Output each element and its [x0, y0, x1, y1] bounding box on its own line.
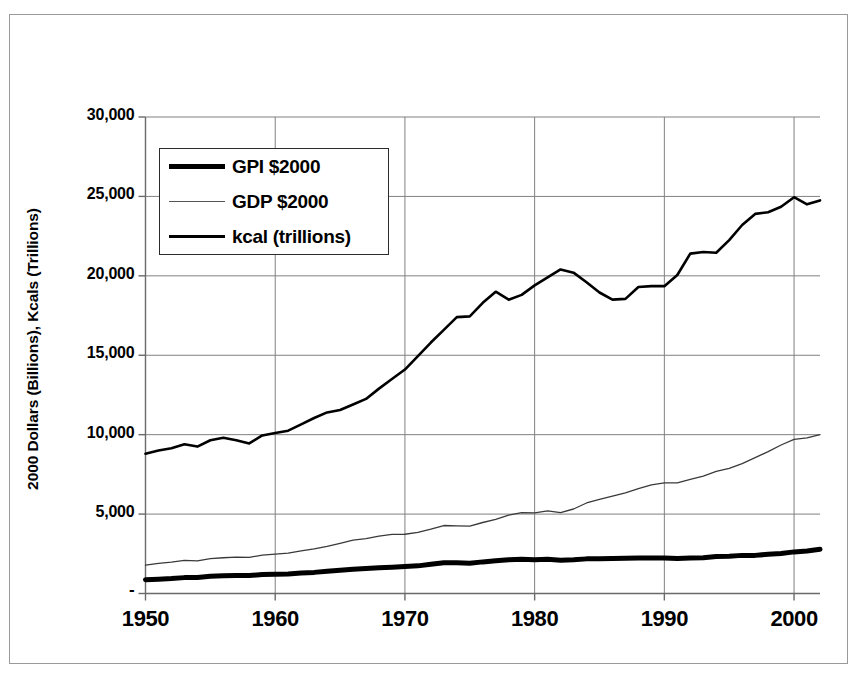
legend-item-label: GDP $2000 — [232, 191, 328, 213]
x-tick-label: 2000 — [749, 606, 839, 632]
y-tick-label: 10,000 — [43, 424, 135, 442]
chart-figure: 2000 Dollars (Billions), Kcals (Trillion… — [0, 0, 865, 681]
y-tick-label: 20,000 — [43, 265, 135, 283]
y-tick-label: - — [43, 580, 135, 600]
y-axis-title: 2000 Dollars (Billions), Kcals (Trillion… — [24, 134, 42, 564]
legend-item-label: GPI $2000 — [232, 156, 320, 178]
legend-line-swatch-thick — [169, 164, 225, 169]
legend-item: GPI $2000 — [160, 149, 388, 184]
chart-legend: GPI $2000GDP $2000kcal (trillions) — [159, 148, 389, 255]
series-line-thin — [146, 435, 821, 566]
legend-item: GDP $2000 — [160, 184, 388, 219]
x-tick-label: 1980 — [490, 606, 580, 632]
y-tick-label: 25,000 — [43, 185, 135, 203]
y-tick-label: 30,000 — [43, 106, 135, 124]
legend-line-swatch-thin — [169, 201, 225, 202]
x-tick-label: 1990 — [619, 606, 709, 632]
legend-line-swatch-medium — [169, 235, 225, 237]
x-tick-label: 1960 — [230, 606, 320, 632]
x-tick-label: 1970 — [360, 606, 450, 632]
legend-item: kcal (trillions) — [160, 219, 388, 254]
y-tick-label: 15,000 — [43, 344, 135, 362]
y-tick-label: 5,000 — [43, 503, 135, 521]
x-tick-label: 1950 — [101, 606, 191, 632]
series-line-thick — [146, 549, 821, 579]
legend-item-label: kcal (trillions) — [232, 226, 351, 248]
